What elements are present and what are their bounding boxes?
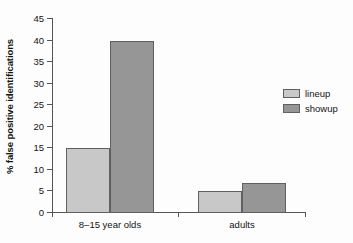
bars-layer bbox=[52, 18, 306, 213]
y-axis-tick-label: 0 bbox=[0, 207, 44, 218]
y-axis-tick-label: 5 bbox=[0, 185, 44, 196]
bar-lineup-children bbox=[66, 148, 110, 213]
bar-chart: % false positive identifications 0510152… bbox=[0, 0, 353, 243]
y-axis-tick-label: 30 bbox=[0, 77, 44, 88]
bar-showup-adults bbox=[242, 183, 286, 213]
y-axis-tick-label: 45 bbox=[0, 13, 44, 24]
legend-swatch-icon-lineup bbox=[283, 89, 300, 98]
bar-lineup-adults bbox=[198, 191, 242, 213]
legend-label-showup: showup bbox=[305, 103, 338, 114]
y-axis-tick-label: 10 bbox=[0, 163, 44, 174]
legend-item-showup: showup bbox=[283, 103, 338, 114]
legend-item-lineup: lineup bbox=[283, 88, 338, 99]
y-axis-tick-label: 20 bbox=[0, 120, 44, 131]
x-group-label-adults: adults bbox=[229, 219, 254, 230]
legend-label-lineup: lineup bbox=[305, 88, 330, 99]
legend: lineup showup bbox=[283, 88, 338, 114]
bar-showup-children bbox=[110, 41, 154, 213]
y-axis-tick-label: 40 bbox=[0, 34, 44, 45]
legend-swatch-icon-showup bbox=[283, 104, 300, 113]
y-axis-tick-label: 35 bbox=[0, 56, 44, 67]
y-axis-tick-label: 15 bbox=[0, 142, 44, 153]
y-axis-tick-label: 25 bbox=[0, 99, 44, 110]
x-group-label-children: 8–15 year olds bbox=[79, 219, 141, 230]
